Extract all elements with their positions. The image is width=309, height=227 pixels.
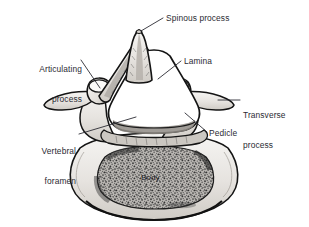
spinous-process-group	[126, 30, 152, 83]
label-spinous-process: Spinous process	[166, 13, 229, 23]
leader-spinous-process	[141, 18, 163, 31]
label-vertebral-foramen: Vertebral foramen	[6, 126, 76, 206]
label-vertebral-foramen-line1: Vertebral	[6, 146, 76, 156]
label-lamina: Lamina	[184, 56, 212, 66]
label-transverse-process-line1: Transverse	[243, 110, 305, 120]
label-transverse-process-line2: process	[243, 140, 305, 150]
label-body: Body	[141, 173, 160, 182]
label-articulating-process-line2: process	[8, 94, 82, 104]
spinous-process-tip	[136, 30, 142, 34]
label-articulating-process: Articulating process	[8, 44, 82, 124]
label-transverse-process: Transverse process	[243, 90, 305, 170]
anatomical-figure: Spinous process Articulating process Lam…	[0, 0, 309, 227]
label-pedicle: Pedicle	[209, 128, 237, 138]
label-articulating-process-line1: Articulating	[8, 64, 82, 74]
label-vertebral-foramen-line2: foramen	[6, 176, 76, 186]
